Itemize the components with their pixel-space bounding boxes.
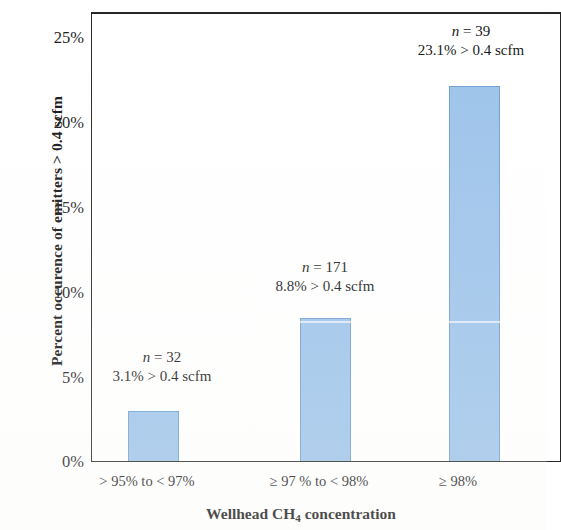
bar-annotation-2-pct: 8.8% > 0.4 scfm <box>235 277 415 296</box>
bar-annotation-3-pct: 23.1% > 0.4 scfm <box>381 41 561 60</box>
y-tick-label-15: 15% <box>32 200 84 217</box>
bar-annotation-3: n = 39 23.1% > 0.4 scfm <box>381 22 561 60</box>
n-value: = 32 <box>150 349 181 365</box>
bar-annotation-2: n = 171 8.8% > 0.4 scfm <box>235 258 415 296</box>
bar-annotation-2-n: n = 171 <box>235 258 415 277</box>
x-axis-title-main: Wellhead CH <box>206 505 295 522</box>
bar-annotation-3-n: n = 39 <box>381 22 561 41</box>
y-tick-label-25: 25% <box>32 30 84 47</box>
bar-annotation-1-pct: 3.1% > 0.4 scfm <box>72 367 252 386</box>
y-tick-label-10: 10% <box>32 285 84 302</box>
n-value: = 39 <box>459 23 490 39</box>
x-axis-title-tail: concentration <box>301 505 396 522</box>
n-symbol: n <box>302 259 310 275</box>
bar-annotation-1-n: n = 32 <box>72 348 252 367</box>
x-axis-title: Wellhead CH4 concentration <box>91 505 511 524</box>
n-value: = 171 <box>310 259 348 275</box>
y-tick-label-0: 0% <box>32 454 84 471</box>
x-tick-label-3: ≥ 98% <box>388 473 528 490</box>
plot-area <box>91 12 561 462</box>
x-tick-label-1: > 95% to < 97% <box>62 473 232 490</box>
y-axis-tick-labels: 25% 20% 15% 10% 5% 0% <box>32 0 84 530</box>
y-tick-label-20: 20% <box>32 115 84 132</box>
bar-category-2 <box>300 318 351 461</box>
bar-annotation-1: n = 32 3.1% > 0.4 scfm <box>72 348 252 386</box>
bar-category-3 <box>449 86 500 461</box>
plot-inner <box>92 14 560 461</box>
bar-category-1 <box>128 411 179 461</box>
x-tick-label-2: ≥ 97 % to < 98% <box>234 473 404 490</box>
